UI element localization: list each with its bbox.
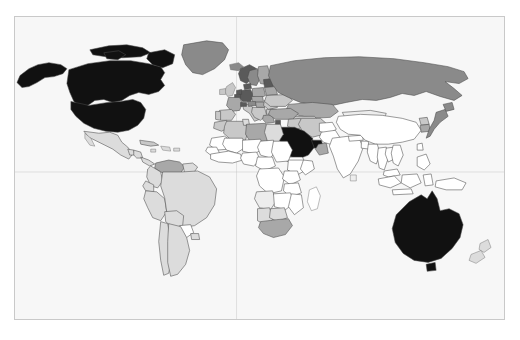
country-portugal[interactable] [216, 111, 221, 120]
country-austria[interactable] [248, 101, 257, 106]
country-indonesia-sulawesi[interactable] [423, 174, 433, 186]
country-netherlands[interactable] [237, 90, 242, 95]
screenshot-root [0, 0, 520, 340]
country-sri-lanka[interactable] [350, 175, 356, 181]
country-czechia-slovakia[interactable] [252, 96, 264, 101]
country-denmark[interactable] [244, 84, 252, 90]
country-sudan[interactable] [271, 141, 292, 162]
country-ireland[interactable] [220, 89, 226, 95]
country-jamaica[interactable] [151, 149, 156, 152]
country-switzerland[interactable] [241, 102, 247, 106]
country-uruguay[interactable] [191, 234, 200, 240]
map-frame [14, 16, 505, 320]
country-indonesia-java[interactable] [392, 189, 413, 195]
country-north-korea[interactable] [419, 117, 429, 125]
country-puerto-rico[interactable] [174, 148, 180, 151]
country-taiwan[interactable] [417, 143, 423, 150]
country-hungary[interactable] [256, 102, 265, 107]
world-map-svg[interactable] [15, 17, 504, 319]
